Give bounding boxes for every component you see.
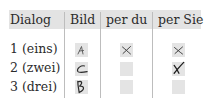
x-mark-bold-icon [172,62,185,76]
header-dialog: Dialog [10,11,51,28]
header-per-du: per du [106,11,147,28]
column-divider [100,12,101,98]
handwritten-letter-c [75,62,88,76]
header-per-sie: per Sie [158,11,203,28]
row-label-dialog-3: 3 (drei) [10,79,57,95]
column-divider [64,12,65,98]
bild-answer-box-3[interactable] [75,80,88,94]
handwritten-letter-b [75,80,88,94]
x-mark-icon [172,43,185,57]
handwritten-letter-a [75,43,88,57]
x-mark-icon [120,43,133,57]
bild-answer-box-2[interactable] [75,62,88,76]
row-label-dialog-1: 1 (eins) [10,41,58,57]
per-sie-checkbox-2[interactable] [172,62,185,76]
column-divider [152,12,153,98]
header-bild: Bild [70,11,95,28]
per-du-checkbox-1[interactable] [120,43,133,57]
per-du-checkbox-3[interactable] [120,80,133,94]
per-du-checkbox-2[interactable] [120,62,133,76]
row-label-dialog-2: 2 (zwei) [10,60,60,76]
bild-answer-box-1[interactable] [75,43,88,57]
per-sie-checkbox-1[interactable] [172,43,185,57]
per-sie-checkbox-3[interactable] [172,80,185,94]
